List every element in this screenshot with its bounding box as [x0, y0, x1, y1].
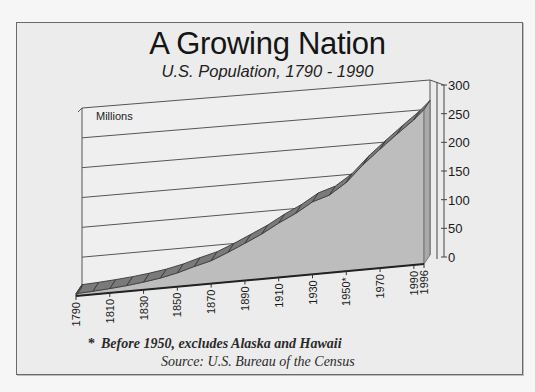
x-tick-label: 1870 [205, 290, 217, 314]
area-end-face [424, 100, 430, 264]
source-citation: Source: U.S. Bureau of the Census [161, 354, 355, 370]
y-axis: 050100150200250300 [437, 78, 470, 265]
y-tick-label: 150 [448, 164, 470, 179]
footnote-marker: * [88, 336, 95, 351]
y-tick-label: 250 [448, 107, 470, 122]
y-axis-units-label: Millions [96, 110, 133, 122]
y-tick-label: 50 [448, 221, 462, 236]
x-tick-label: 1850 [171, 293, 183, 317]
x-tick-label: 1996 [418, 270, 430, 294]
y-tick-label: 100 [448, 193, 470, 208]
x-tick-label: 1970 [374, 274, 386, 298]
footnote-text: Before 1950, excludes Alaska and Hawaii [101, 336, 342, 351]
x-tick-label: 1890 [239, 286, 251, 310]
x-tick-label: 1950* [340, 276, 352, 305]
x-tick-label: 1810 [104, 299, 116, 323]
y-tick-label: 300 [448, 78, 470, 93]
y-tick-label: 0 [448, 250, 455, 265]
y-tick-label: 200 [448, 135, 470, 150]
x-tick-label: 1830 [138, 296, 150, 320]
population-area-chart: 050100150200250300 179018101830185018701… [0, 0, 535, 392]
x-tick-label: 1910 [273, 283, 285, 307]
x-tick-label: 1790 [70, 302, 82, 326]
x-tick-label: 1930 [307, 280, 319, 304]
footnote: *Before 1950, excludes Alaska and Hawaii [88, 336, 342, 352]
